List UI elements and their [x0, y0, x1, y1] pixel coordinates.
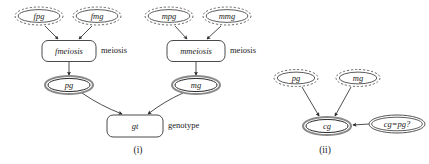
node-mpg-label: mpg — [162, 11, 177, 21]
node-mmg[interactable]: mmg — [203, 7, 251, 25]
annotation-gt-type: genotype — [168, 120, 199, 130]
node-gt[interactable]: gt — [107, 115, 163, 137]
node-cg-label: cg — [323, 121, 331, 131]
node-fmeiosis-label: fmeiosis — [55, 46, 84, 56]
node-mg2-label: mg — [353, 73, 363, 83]
edge-fpg-to-fmeiosis — [45, 26, 58, 39]
edge-mg2-to-cg — [335, 87, 351, 116]
node-fpg-label: fpg — [34, 11, 45, 21]
annotation-fmeiosis-type: meiosis — [101, 45, 127, 55]
edge-cgpg-to-cg — [353, 124, 369, 125]
node-pg-label: pg — [64, 80, 74, 90]
node-pg2[interactable]: pg — [274, 70, 318, 87]
caption-i: (i) — [134, 145, 143, 156]
edge-mg-to-gt — [148, 93, 183, 114]
panel-i-node-group: fpgfmgmpgmmgfmeiosismmeiosispgmggt — [15, 7, 251, 137]
panel-ii-node-group: pgmgcgcg=pg? — [274, 70, 425, 136]
edge-mpg-to-mmeiosis — [175, 26, 187, 39]
node-pg2-label: pg — [291, 73, 301, 83]
node-fmg-label: fmg — [91, 11, 104, 21]
caption-group: (i)(ii) — [134, 145, 331, 156]
node-cgpg-label: cg=pg? — [384, 119, 411, 129]
node-fpg[interactable]: fpg — [15, 7, 63, 25]
node-pg[interactable]: pg — [45, 76, 93, 94]
figure-canvas: fpgfmgmpgmmgfmeiosismmeiosispgmggt meios… — [0, 0, 429, 164]
annotation-mmeiosis-type: meiosis — [230, 45, 256, 55]
edge-mmg-to-mmeiosis — [207, 26, 221, 39]
node-mmeiosis[interactable]: mmeiosis — [167, 41, 225, 62]
node-mg-label: mg — [191, 80, 201, 90]
caption-ii: (ii) — [319, 145, 331, 156]
panel-i-edge-group — [45, 26, 221, 114]
node-fmeiosis[interactable]: fmeiosis — [42, 41, 96, 62]
node-mg2[interactable]: mg — [336, 70, 380, 87]
node-mpg[interactable]: mpg — [145, 7, 193, 25]
node-gt-label: gt — [132, 121, 139, 131]
edge-fmg-to-fmeiosis — [79, 26, 92, 39]
node-fmg[interactable]: fmg — [73, 7, 121, 25]
node-cg[interactable]: cg — [303, 117, 351, 135]
node-cgpg[interactable]: cg=pg? — [369, 115, 425, 133]
edge-pg2-to-cg — [302, 87, 319, 116]
node-mmeiosis-label: mmeiosis — [180, 46, 212, 56]
node-mmg-label: mmg — [219, 11, 236, 21]
edge-pg-to-gt — [82, 93, 122, 114]
node-mg[interactable]: mg — [172, 76, 220, 94]
